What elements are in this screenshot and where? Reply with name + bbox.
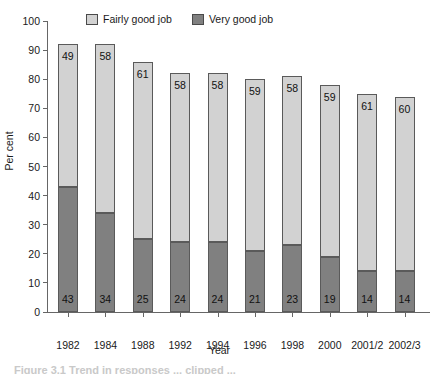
y-tick-90: 90 bbox=[16, 44, 47, 56]
bar-value-label: 58 bbox=[99, 51, 111, 62]
bar-1988[interactable]: 2561 bbox=[133, 62, 153, 312]
bar-value-label: 14 bbox=[361, 294, 373, 305]
x-tick-mark-1984 bbox=[105, 313, 106, 317]
y-tick-mark bbox=[43, 108, 47, 109]
y-tick-mark bbox=[43, 253, 47, 254]
bar-2000[interactable]: 1959 bbox=[320, 85, 340, 312]
y-tick-mark bbox=[43, 21, 47, 22]
y-tick-label: 80 bbox=[16, 73, 43, 85]
bar-value-label: 34 bbox=[99, 294, 111, 305]
y-axis-line bbox=[47, 21, 48, 313]
bar-value-label: 43 bbox=[62, 294, 74, 305]
plot-area: 0102030405060708090100434919823458198425… bbox=[47, 21, 430, 313]
y-tick-mark bbox=[43, 137, 47, 138]
bar-2001/2[interactable]: 1461 bbox=[357, 94, 377, 312]
y-tick-40: 40 bbox=[16, 190, 47, 202]
bar-segment-fairly-good-job[interactable]: 58 bbox=[282, 76, 302, 245]
bar-segment-very-good-job[interactable]: 43 bbox=[58, 187, 78, 312]
bar-1982[interactable]: 4349 bbox=[58, 44, 78, 312]
x-tick-mark-2002/3 bbox=[405, 313, 406, 317]
y-tick-label: 0 bbox=[16, 306, 43, 318]
x-tick-mark-1998 bbox=[292, 313, 293, 317]
bar-value-label: 59 bbox=[249, 86, 261, 97]
y-axis-title: Per cent bbox=[3, 131, 15, 170]
y-tick-10: 10 bbox=[16, 277, 47, 289]
bar-segment-fairly-good-job[interactable]: 58 bbox=[208, 73, 228, 242]
bar-segment-very-good-job[interactable]: 24 bbox=[170, 242, 190, 312]
x-tick-mark-2000 bbox=[330, 313, 331, 317]
bar-value-label: 58 bbox=[174, 80, 186, 91]
y-tick-0: 0 bbox=[16, 306, 47, 318]
bar-1998[interactable]: 2358 bbox=[282, 76, 302, 312]
y-tick-mark bbox=[43, 50, 47, 51]
bar-segment-fairly-good-job[interactable]: 49 bbox=[58, 44, 78, 187]
bar-value-label: 19 bbox=[324, 294, 336, 305]
y-tick-label: 50 bbox=[16, 161, 43, 173]
y-tick-20: 20 bbox=[16, 248, 47, 260]
x-tick-mark-1996 bbox=[255, 313, 256, 317]
x-tick-mark-1988 bbox=[143, 313, 144, 317]
bar-value-label: 21 bbox=[249, 294, 261, 305]
y-tick-50: 50 bbox=[16, 161, 47, 173]
bar-2002/3[interactable]: 1460 bbox=[395, 97, 415, 312]
bar-value-label: 25 bbox=[137, 294, 149, 305]
x-tick-mark-2001/2 bbox=[367, 313, 368, 317]
y-tick-label: 70 bbox=[16, 102, 43, 114]
bar-segment-fairly-good-job[interactable]: 61 bbox=[133, 62, 153, 240]
y-tick-mark bbox=[43, 312, 47, 313]
stacked-bar-chart: Fairly good job Very good job 0102030405… bbox=[0, 0, 439, 374]
bar-segment-very-good-job[interactable]: 25 bbox=[133, 239, 153, 312]
bar-value-label: 58 bbox=[286, 83, 298, 94]
y-tick-mark bbox=[43, 79, 47, 80]
x-tick-mark-1982 bbox=[68, 313, 69, 317]
bar-value-label: 24 bbox=[174, 294, 186, 305]
y-tick-label: 90 bbox=[16, 44, 43, 56]
y-tick-30: 30 bbox=[16, 219, 47, 231]
bar-segment-fairly-good-job[interactable]: 58 bbox=[170, 73, 190, 242]
y-tick-100: 100 bbox=[16, 15, 47, 27]
y-tick-label: 40 bbox=[16, 190, 43, 202]
y-tick-mark bbox=[43, 224, 47, 225]
bar-value-label: 23 bbox=[286, 294, 298, 305]
bar-value-label: 14 bbox=[399, 294, 411, 305]
bar-1996[interactable]: 2159 bbox=[245, 79, 265, 312]
bar-segment-fairly-good-job[interactable]: 59 bbox=[245, 79, 265, 251]
bar-segment-very-good-job[interactable]: 23 bbox=[282, 245, 302, 312]
y-tick-mark bbox=[43, 195, 47, 196]
bar-segment-very-good-job[interactable]: 14 bbox=[395, 271, 415, 312]
x-axis-title: Year bbox=[0, 344, 439, 356]
y-tick-60: 60 bbox=[16, 131, 47, 143]
y-tick-mark bbox=[43, 166, 47, 167]
figure-caption-fragment: Figure 3.1 Trend in responses ... clippe… bbox=[14, 364, 434, 374]
bar-segment-very-good-job[interactable]: 21 bbox=[245, 251, 265, 312]
x-tick-mark-1994 bbox=[218, 313, 219, 317]
y-tick-label: 30 bbox=[16, 219, 43, 231]
bar-segment-fairly-good-job[interactable]: 59 bbox=[320, 85, 340, 257]
y-tick-label: 100 bbox=[16, 15, 43, 27]
bar-value-label: 61 bbox=[137, 69, 149, 80]
y-tick-mark bbox=[43, 282, 47, 283]
bar-segment-very-good-job[interactable]: 24 bbox=[208, 242, 228, 312]
bar-segment-very-good-job[interactable]: 14 bbox=[357, 271, 377, 312]
bar-1994[interactable]: 2458 bbox=[208, 73, 228, 312]
y-tick-80: 80 bbox=[16, 73, 47, 85]
bar-value-label: 60 bbox=[399, 104, 411, 115]
bar-segment-fairly-good-job[interactable]: 60 bbox=[395, 97, 415, 272]
y-tick-70: 70 bbox=[16, 102, 47, 114]
y-tick-label: 20 bbox=[16, 248, 43, 260]
bar-1992[interactable]: 2458 bbox=[170, 73, 190, 312]
bar-segment-very-good-job[interactable]: 34 bbox=[95, 213, 115, 312]
bar-value-label: 59 bbox=[324, 92, 336, 103]
bar-value-label: 58 bbox=[212, 80, 224, 91]
bar-1984[interactable]: 3458 bbox=[95, 44, 115, 312]
bar-value-label: 61 bbox=[361, 101, 373, 112]
x-tick-mark-1992 bbox=[180, 313, 181, 317]
bar-segment-very-good-job[interactable]: 19 bbox=[320, 257, 340, 312]
bar-value-label: 49 bbox=[62, 51, 74, 62]
bar-segment-fairly-good-job[interactable]: 61 bbox=[357, 94, 377, 272]
bar-value-label: 24 bbox=[212, 294, 224, 305]
y-tick-label: 60 bbox=[16, 131, 43, 143]
y-tick-label: 10 bbox=[16, 277, 43, 289]
bar-segment-fairly-good-job[interactable]: 58 bbox=[95, 44, 115, 213]
